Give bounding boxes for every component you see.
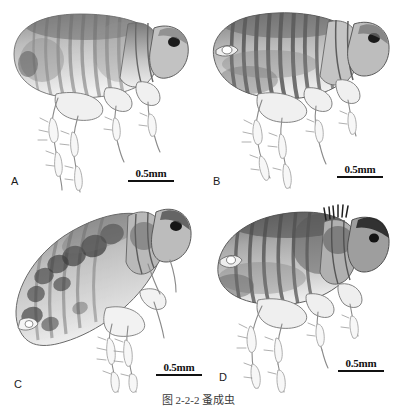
scale-bar-label-c: 0.5mm <box>156 362 202 373</box>
figure-caption: 图 2-2-2 蚤成虫 <box>0 391 397 407</box>
scale-bar-line-b <box>337 176 383 178</box>
flea-specimen-image-a <box>2 2 198 194</box>
scale-bar-label-a: 0.5mm <box>128 168 174 179</box>
scale-bar-d: 0.5mm <box>338 358 384 372</box>
panel-label-b: B <box>213 176 221 187</box>
scale-bar-line-d <box>338 370 384 372</box>
scale-bar-line-a <box>128 180 174 182</box>
scale-bar-b: 0.5mm <box>337 164 383 178</box>
scale-bar-label-b: 0.5mm <box>337 164 383 175</box>
panel-a <box>2 2 198 194</box>
scale-bar-line-c <box>156 374 202 376</box>
scale-bar-c: 0.5mm <box>156 362 202 376</box>
panel-label-a: A <box>11 176 19 187</box>
scale-bar-label-d: 0.5mm <box>338 358 384 369</box>
panel-label-c: C <box>14 379 22 390</box>
scale-bar-a: 0.5mm <box>128 168 174 182</box>
panel-label-d: D <box>219 372 227 383</box>
